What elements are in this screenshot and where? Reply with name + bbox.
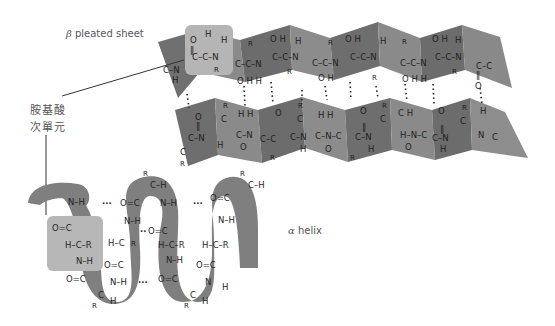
svg-text:H: H: [110, 296, 116, 306]
svg-text:O: O: [325, 144, 332, 154]
svg-text:N–H: N–H: [218, 215, 235, 225]
svg-text:H: H: [480, 106, 486, 116]
protein-structure-diagram: C–N H O ‖ C–C–N H H R C–C–N O H H R O H …: [0, 0, 555, 326]
svg-text:H: H: [202, 296, 208, 306]
svg-text:H: H: [368, 144, 374, 154]
svg-text:O: O: [438, 106, 445, 116]
svg-text:R: R: [350, 154, 355, 162]
svg-text:N–H: N–H: [110, 277, 127, 287]
svg-text:N–H: N–H: [160, 198, 177, 208]
svg-text:C–H: C–H: [248, 180, 265, 190]
amino-acid-subunit-label: 胺基酸 次單元: [30, 102, 66, 136]
svg-text:H: H: [222, 282, 228, 292]
svg-text:C: C: [492, 132, 498, 142]
svg-text:R: R: [240, 170, 245, 178]
svg-text:C: C: [190, 290, 196, 300]
svg-text:H: H: [455, 35, 461, 45]
svg-text:C–C–N: C–C–N: [435, 52, 462, 62]
svg-text:O H: O H: [270, 34, 286, 44]
svg-text:O=C: O=C: [148, 226, 168, 236]
svg-text:O: O: [240, 142, 247, 152]
svg-text:O: O: [475, 81, 482, 91]
svg-text:H: H: [217, 140, 223, 150]
svg-text:‖: ‖: [362, 122, 366, 132]
svg-text:C–N: C–N: [163, 65, 180, 75]
svg-text:H H: H H: [318, 110, 334, 120]
svg-text:H: H: [205, 29, 211, 39]
svg-text:C–N: C–N: [432, 133, 449, 143]
svg-text:O=C: O=C: [210, 193, 230, 203]
svg-text:R: R: [452, 68, 457, 76]
alpha-symbol: α: [288, 225, 295, 236]
svg-text:C: C: [460, 116, 466, 126]
svg-text:N–H: N–H: [124, 216, 141, 226]
alpha-helix-label: α helix: [288, 225, 322, 236]
svg-text:C–C–N: C–C–N: [235, 59, 262, 69]
svg-text:C–H: C–H: [150, 180, 167, 190]
amino-label-line1: 胺基酸: [30, 102, 66, 119]
svg-text:R: R: [402, 38, 407, 46]
svg-text:O: O: [190, 35, 197, 45]
svg-text:H–C–R: H–C–R: [158, 240, 185, 250]
svg-text:O=C: O=C: [120, 198, 140, 208]
svg-text:R: R: [382, 102, 387, 110]
svg-text:C–C–N: C–C–N: [350, 52, 377, 62]
svg-text:O=C: O=C: [196, 260, 216, 270]
svg-text:N–H: N–H: [76, 256, 93, 266]
svg-text:O H: O H: [318, 73, 334, 83]
svg-text:R: R: [328, 39, 333, 47]
svg-text:H: H: [300, 144, 306, 154]
alpha-label-text: helix: [295, 225, 322, 236]
svg-text:R: R: [287, 68, 292, 76]
amino-label-line2: 次單元: [30, 119, 66, 136]
svg-text:···: ···: [102, 198, 112, 208]
svg-text:O H: O H: [432, 34, 448, 44]
svg-text:R: R: [223, 102, 228, 110]
svg-text:O H: O H: [345, 34, 361, 44]
svg-text:O=C: O=C: [66, 274, 86, 284]
svg-text:N–H: N–H: [166, 255, 183, 265]
svg-text:R: R: [298, 102, 303, 110]
svg-text:H: H: [221, 35, 227, 45]
svg-text:R: R: [462, 104, 467, 112]
svg-text:C: C: [380, 114, 386, 124]
svg-text:R: R: [92, 302, 97, 310]
beta-label-text: pleated sheet: [72, 28, 144, 39]
svg-text:N: N: [478, 130, 484, 140]
svg-text:O=C: O=C: [104, 260, 124, 270]
svg-text:C: C: [98, 290, 104, 300]
svg-text:O=C: O=C: [52, 223, 72, 233]
svg-text:R: R: [214, 66, 219, 74]
svg-text:C–N: C–N: [188, 133, 205, 143]
diagram-canvas: C–N H O ‖ C–C–N H H R C–C–N O H H R O H …: [0, 0, 555, 326]
svg-text:R: R: [248, 40, 253, 48]
svg-text:R: R: [143, 170, 148, 178]
svg-text:C–C–N: C–C–N: [272, 52, 299, 62]
svg-text:O H H: O H H: [237, 76, 262, 86]
svg-text:H: H: [380, 36, 386, 46]
svg-text:C–N–C: C–N–C: [315, 131, 342, 141]
svg-text:R: R: [372, 74, 377, 82]
svg-text:H–N–C: H–N–C: [400, 130, 427, 140]
svg-text:H–C–R: H–C–R: [65, 240, 92, 250]
svg-text:C: C: [297, 114, 303, 124]
svg-text:‖: ‖: [476, 70, 480, 80]
svg-text:H: H: [295, 36, 301, 46]
svg-text:C H: C H: [398, 108, 413, 118]
svg-text:H–C: H–C: [108, 238, 125, 248]
svg-text:C–N: C–N: [236, 130, 253, 140]
svg-text:O: O: [275, 108, 282, 118]
svg-text:H–C–R: H–C–R: [202, 240, 229, 250]
svg-text:H: H: [172, 75, 178, 85]
svg-text:···: ···: [193, 198, 203, 208]
svg-text:C–C: C–C: [260, 134, 276, 144]
svg-text:O=C: O=C: [158, 274, 178, 284]
beta-pleated-sheet-label: β pleated sheet: [66, 28, 144, 39]
svg-text:N: N: [205, 277, 211, 287]
svg-text:O: O: [360, 106, 367, 116]
svg-text:··: ··: [140, 226, 146, 236]
svg-text:C–N: C–N: [290, 132, 307, 142]
svg-text:H: H: [440, 144, 446, 154]
svg-text:R: R: [184, 302, 189, 310]
svg-text:R: R: [131, 240, 136, 248]
